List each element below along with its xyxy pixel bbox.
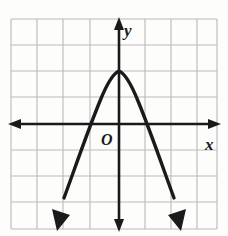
origin-label: O <box>101 131 113 148</box>
x-axis-label: x <box>204 135 214 154</box>
coordinate-grid-graph: O y x <box>0 0 228 236</box>
graph-figure: O y x <box>0 0 228 236</box>
figure-background <box>0 0 228 236</box>
y-axis-label: y <box>122 21 132 40</box>
